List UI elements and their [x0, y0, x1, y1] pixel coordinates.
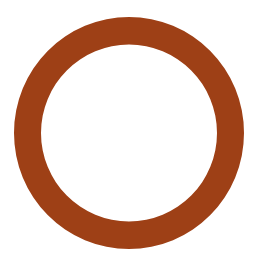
- ring-figure: [0, 0, 262, 266]
- image-canvas: Solid rust-brown ring (circular outline …: [0, 0, 262, 266]
